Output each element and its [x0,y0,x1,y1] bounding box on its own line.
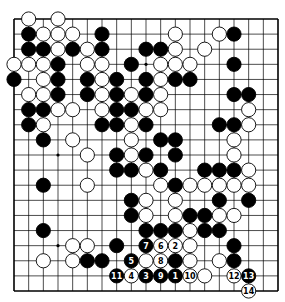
white-stone [51,12,65,26]
white-stone [212,178,226,192]
black-stone [139,223,153,237]
black-stone [242,193,256,207]
black-stone [22,103,36,117]
go-board: 7625811439110121314 [0,0,285,302]
black-stone: 5 [124,254,138,268]
white-stone [80,178,94,192]
black-stone [212,118,226,132]
black-stone [22,118,36,132]
black-stone: 1 [168,269,182,283]
white-stone [95,103,109,117]
black-stone [198,163,212,177]
white-stone [183,57,197,71]
black-stone [227,27,241,41]
move-number-label: 11 [111,272,123,281]
move-number-label: 1 [173,272,179,281]
white-stone: 8 [154,254,168,268]
black-stone [227,254,241,268]
black-stone [212,223,226,237]
white-stone [227,208,241,222]
white-stone: 14 [242,284,256,298]
white-stone [242,178,256,192]
black-stone [154,42,168,56]
black-stone [227,163,241,177]
black-stone [227,87,241,101]
black-stone [80,254,94,268]
white-stone [66,133,80,147]
black-stone [227,239,241,253]
black-stone [36,178,50,192]
move-number-label: 4 [129,272,135,281]
black-stone [168,148,182,162]
white-stone [168,208,182,222]
white-stone [227,148,241,162]
black-stone [227,118,241,132]
black-stone [36,42,50,56]
white-stone [66,239,80,253]
white-stone [183,254,197,268]
black-stone [124,57,138,71]
move-number-label: 6 [158,242,164,251]
white-stone: 2 [168,239,182,253]
black-stone [110,103,124,117]
white-stone [198,178,212,192]
black-stone [51,57,65,71]
white-stone [154,178,168,192]
white-stone [95,72,109,86]
white-stone [22,57,36,71]
white-stone [168,57,182,71]
white-stone [212,208,226,222]
move-number-label: 13 [243,272,254,281]
white-stone [227,133,241,147]
white-stone [95,87,109,101]
black-stone [139,42,153,56]
white-stone [168,193,182,207]
black-stone [110,118,124,132]
white-stone [66,103,80,117]
black-stone [66,42,80,56]
white-stone [7,57,21,71]
black-stone: 11 [110,269,124,283]
black-stone [168,72,182,86]
white-stone [242,163,256,177]
white-stone [154,103,168,117]
star-point [144,63,147,66]
black-stone [124,163,138,177]
white-stone: 10 [183,269,197,283]
black-stone [168,133,182,147]
black-stone [36,103,50,117]
white-stone [139,193,153,207]
black-stone [110,148,124,162]
black-stone [212,163,226,177]
star-point [56,244,59,247]
white-stone [183,223,197,237]
white-stone [124,148,138,162]
black-stone [7,72,21,86]
black-stone [168,178,182,192]
black-stone [124,103,138,117]
white-stone [36,118,50,132]
black-stone [36,223,50,237]
white-stone [168,42,182,56]
move-number-label: 9 [158,272,164,281]
black-stone [242,87,256,101]
black-stone [139,118,153,132]
white-stone [51,42,65,56]
black-stone: 7 [139,239,153,253]
black-stone: 9 [154,269,168,283]
black-stone [110,239,124,253]
black-stone [139,148,153,162]
white-stone [183,239,197,253]
black-stone [80,72,94,86]
black-stone [183,72,197,86]
white-stone [139,163,153,177]
white-stone [154,87,168,101]
white-stone [36,27,50,41]
move-number-label: 3 [143,272,149,281]
white-stone [36,254,50,268]
move-number-label: 5 [129,257,135,266]
move-number-label: 10 [184,272,196,281]
black-stone [168,223,182,237]
black-stone [22,42,36,56]
move-number-label: 8 [158,257,164,266]
